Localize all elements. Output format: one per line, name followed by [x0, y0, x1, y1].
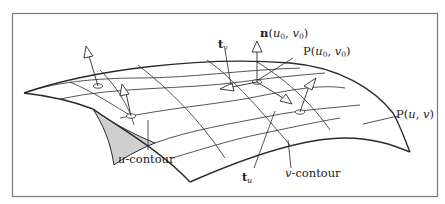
point-u-v-label: P(u, v) — [396, 107, 434, 121]
normal-label: n(u0, v0) — [260, 26, 308, 41]
tv-label: tv — [218, 37, 228, 52]
v-contour-label: v-contour — [285, 166, 341, 180]
surface-grid — [24, 60, 360, 158]
figure-frame — [13, 14, 438, 197]
surface-outline — [24, 61, 410, 182]
u-contour-label: u-contour — [118, 152, 175, 166]
tu-label: tu — [242, 170, 252, 185]
point-u0-v0-label: P(u0, v0) — [303, 44, 351, 59]
parametric-surface-diagram: n(u0, v0) P(u0, v0) tv P(u, v) u-contour… — [0, 0, 445, 204]
